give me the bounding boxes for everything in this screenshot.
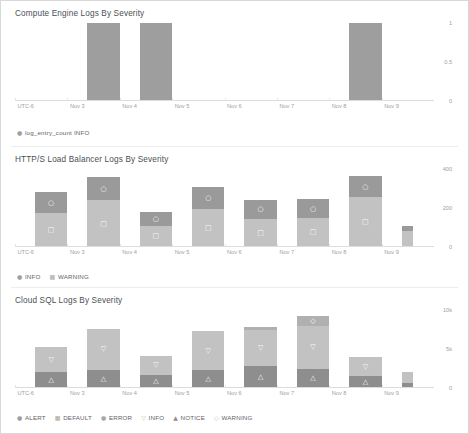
- bar-segment-log_entry_count info[interactable]: [349, 23, 381, 101]
- bar-group-compute-engine: [15, 23, 434, 101]
- x-tick-label: Nov 3: [70, 103, 85, 110]
- bar-segment-warning[interactable]: [402, 226, 414, 232]
- bar-segment-info[interactable]: □: [244, 219, 276, 247]
- x-tick-label: Nov 9: [384, 390, 399, 397]
- bar-segment-info[interactable]: □: [192, 209, 224, 247]
- bar-segment-info[interactable]: □: [349, 197, 381, 247]
- series-marker-icon: □: [100, 220, 107, 227]
- plot-area-cloud-sql: △▽△▽△▽△▽△▽△▽◇△▽: [1, 310, 468, 388]
- bar-nov-7[interactable]: □○: [297, 199, 329, 247]
- y-tick-label: 400: [443, 166, 452, 172]
- x-tick-mark: [225, 98, 226, 101]
- bar-segment-info[interactable]: ▽: [297, 326, 329, 368]
- y-tick-label: 10k: [443, 307, 452, 313]
- legend-item-alert[interactable]: ●ALERT: [17, 414, 46, 422]
- panel-title-compute-engine: Compute Engine Logs By Severity: [1, 1, 468, 19]
- series-marker-icon: □: [153, 233, 160, 240]
- legend-item-info[interactable]: ●INFO: [17, 273, 41, 281]
- y-tick-label: 0: [449, 98, 452, 104]
- x-tick-label: Nov 7: [279, 249, 294, 256]
- x-tick-mark: [67, 385, 68, 388]
- legend-item-warning[interactable]: ■WARNING: [50, 273, 89, 281]
- bar-nov-3[interactable]: △▽: [87, 329, 119, 388]
- bar-nov-8[interactable]: [349, 23, 381, 101]
- legend-item-info[interactable]: ▽INFO: [141, 414, 164, 422]
- bar-segment-info[interactable]: [402, 372, 414, 382]
- bar-utc-6[interactable]: □○: [35, 192, 67, 247]
- bar-nov-7[interactable]: △▽◇: [297, 316, 329, 388]
- bar-segment-notice[interactable]: △: [297, 369, 329, 388]
- series-marker-icon: △: [310, 375, 315, 382]
- bar-nov-9[interactable]: [402, 372, 414, 388]
- x-tick-label: UTC-6: [18, 390, 34, 397]
- y-tick-label: 200: [443, 205, 452, 211]
- bar-segment-warning[interactable]: ◇: [297, 316, 329, 326]
- bar-segment-warning[interactable]: ○: [349, 176, 381, 197]
- legend-item-log-entry-count-info[interactable]: ●log_entry_count INFO: [17, 129, 89, 137]
- bar-nov-4[interactable]: △▽: [140, 356, 172, 388]
- bar-nov-3[interactable]: [87, 23, 119, 101]
- x-tick-label: Nov 6: [227, 390, 242, 397]
- bar-segment-log_entry_count info[interactable]: [140, 23, 172, 101]
- legend-item-default[interactable]: ■DEFAULT: [55, 414, 92, 422]
- bar-nov-3[interactable]: □○: [87, 177, 119, 247]
- bar-segment-info[interactable]: □: [35, 213, 67, 247]
- bar-segment-warning[interactable]: ○: [192, 187, 224, 209]
- x-tick-mark: [382, 98, 383, 101]
- panel-compute-engine: Compute Engine Logs By Severity 10.50 UT…: [1, 1, 468, 146]
- bar-nov-6[interactable]: △▽: [244, 327, 276, 388]
- x-tick-mark: [15, 385, 16, 388]
- bar-segment-warning[interactable]: ○: [35, 192, 67, 212]
- bar-segment-notice[interactable]: △: [244, 366, 276, 388]
- bar-segment-warning[interactable]: ○: [297, 199, 329, 218]
- series-marker-icon: ◇: [310, 318, 315, 325]
- bar-segment-info[interactable]: □: [87, 200, 119, 247]
- bar-segment-info[interactable]: □: [140, 226, 172, 247]
- bar-segment-notice[interactable]: △: [87, 370, 119, 388]
- legend-item-warning[interactable]: ◇WARNING: [214, 414, 252, 422]
- series-marker-icon: △: [258, 374, 263, 381]
- bar-utc-6[interactable]: △▽: [35, 347, 67, 388]
- x-tick-mark: [172, 244, 173, 247]
- bar-segment-info[interactable]: ▽: [87, 329, 119, 370]
- series-marker-icon: △: [101, 376, 106, 383]
- bar-nov-4[interactable]: [140, 23, 172, 101]
- bar-segment-log_entry_count info[interactable]: [87, 23, 119, 101]
- series-marker-icon: □: [257, 229, 264, 236]
- bar-nov-4[interactable]: □○: [140, 212, 172, 247]
- bar-nov-9[interactable]: [402, 226, 414, 247]
- x-tick-label: Nov 7: [279, 103, 294, 110]
- legend-item-error[interactable]: ●ERROR: [101, 414, 132, 422]
- legend-label: ERROR: [109, 414, 132, 422]
- series-marker-icon: △: [206, 376, 211, 383]
- bar-segment-warning[interactable]: [244, 327, 276, 329]
- bar-nov-5[interactable]: △▽: [192, 331, 224, 388]
- bar-segment-notice[interactable]: △: [140, 375, 172, 388]
- x-tick-mark: [277, 244, 278, 247]
- bar-segment-warning[interactable]: ○: [140, 212, 172, 226]
- bar-segment-warning[interactable]: ○: [87, 177, 119, 200]
- bar-segment-warning[interactable]: ○: [244, 200, 276, 219]
- bar-segment-info[interactable]: ▽: [192, 331, 224, 370]
- x-tick-mark: [329, 244, 330, 247]
- bar-nov-5[interactable]: □○: [192, 187, 224, 247]
- y-tick-label: 1: [449, 20, 452, 26]
- bar-segment-info[interactable]: ▽: [35, 347, 67, 373]
- chart-compute-engine: 10.50 UTC-6Nov 3Nov 4Nov 5Nov 6Nov 7Nov …: [1, 23, 468, 115]
- bar-nov-8[interactable]: □○: [349, 176, 381, 247]
- legend-item-notice[interactable]: ▲NOTICE: [173, 414, 205, 422]
- series-marker-icon: ○: [48, 199, 54, 206]
- bar-segment-notice[interactable]: △: [192, 370, 224, 388]
- series-marker-icon: ○: [153, 215, 159, 222]
- chart-cloud-sql: △▽△▽△▽△▽△▽△▽◇△▽ 10k5k0 UTC-6Nov 3Nov 4No…: [1, 310, 468, 402]
- x-tick-label: Nov 8: [332, 249, 347, 256]
- bar-nov-8[interactable]: △▽: [349, 357, 381, 388]
- bar-segment-info[interactable]: □: [297, 218, 329, 247]
- bar-segment-info[interactable]: [402, 231, 414, 247]
- bar-segment-info[interactable]: ▽: [349, 357, 381, 376]
- bar-segment-info[interactable]: ▽: [244, 330, 276, 367]
- x-tick-mark: [172, 98, 173, 101]
- bar-segment-info[interactable]: ▽: [140, 356, 172, 375]
- bar-segment-notice[interactable]: △: [35, 372, 67, 388]
- bar-nov-6[interactable]: □○: [244, 200, 276, 247]
